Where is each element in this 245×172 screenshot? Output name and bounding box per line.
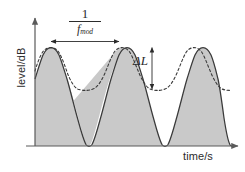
period-denominator: fmod [65, 23, 105, 38]
modulation-level-figure: 1 fmod ΔL level/dB time/s [0, 0, 245, 172]
level-difference-annotation: ΔL [133, 54, 148, 67]
plot-canvas [0, 0, 245, 172]
period-numerator: 1 [65, 7, 105, 21]
fraction-bar [69, 21, 101, 22]
modulation-frequency-subscript: mod [80, 27, 93, 36]
period-annotation: 1 fmod [65, 7, 105, 38]
x-axis-label: time/s [183, 151, 213, 162]
y-axis-label: level/dB [16, 38, 27, 98]
